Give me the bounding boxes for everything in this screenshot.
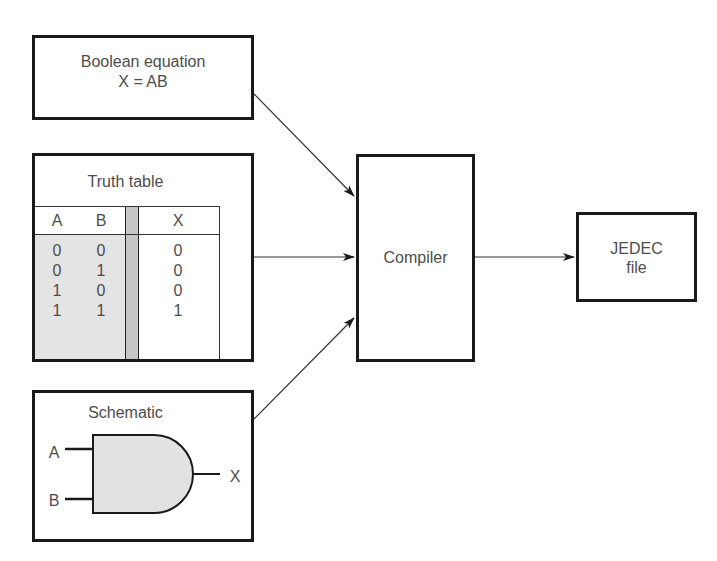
compiler-box: Compiler <box>356 154 475 362</box>
jedec-file-line2: file <box>579 258 694 277</box>
jedec-file-line1: JEDEC <box>579 239 694 258</box>
compiler-label: Compiler <box>359 248 472 267</box>
jedec-file-box: JEDEC file <box>576 212 697 302</box>
